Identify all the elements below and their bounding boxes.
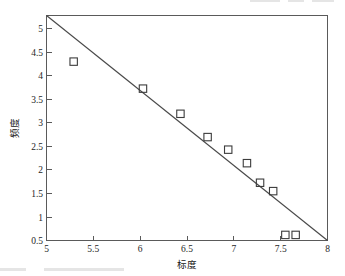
y-tick-labels: 0.5 1 1.5 2 2.5 3 3.5 4 4.5 5 [31, 24, 43, 246]
y-tick-label: 0.5 [31, 236, 43, 246]
x-axis-ticks [47, 236, 328, 241]
x-tick-label: 6.5 [181, 244, 193, 254]
data-point [225, 146, 232, 153]
y-tick-label: 4 [38, 71, 43, 81]
y-tick-label: 1.5 [31, 189, 43, 199]
y-tick-label: 4.5 [31, 48, 43, 58]
fit-line-group [47, 16, 328, 241]
chart-container: 5 5.5 6 6.5 7 7.5 8 0.5 1 1.5 2 2.5 3 3.… [0, 0, 345, 276]
data-point [292, 231, 299, 238]
y-tick-label: 2.5 [31, 142, 43, 152]
y-axis-title: 频度 [9, 118, 20, 138]
x-axis-title: 标度 [177, 259, 197, 270]
data-point [177, 110, 184, 117]
x-tick-label: 6 [138, 244, 143, 254]
data-point [282, 231, 289, 238]
y-tick-label: 5 [38, 24, 43, 34]
y-tick-label: 1 [38, 213, 43, 223]
data-point [204, 133, 211, 140]
x-tick-label: 8 [325, 244, 330, 254]
data-point [243, 159, 250, 166]
x-tick-label: 5.5 [87, 244, 99, 254]
scatter-plot-svg: 5 5.5 6 6.5 7 7.5 8 0.5 1 1.5 2 2.5 3 3.… [0, 0, 345, 276]
x-tick-label: 7.5 [275, 244, 287, 254]
scan-artifacts [0, 0, 334, 271]
y-tick-label: 2 [38, 165, 43, 175]
x-tick-label: 7 [231, 244, 236, 254]
x-tick-label: 5 [44, 244, 49, 254]
data-point [269, 187, 276, 194]
data-point [256, 179, 263, 186]
y-tick-label: 3.5 [31, 95, 43, 105]
data-point [70, 58, 77, 65]
x-tick-labels: 5 5.5 6 6.5 7 7.5 8 [44, 244, 330, 254]
y-tick-label: 3 [38, 118, 43, 128]
y-axis-ticks [47, 29, 52, 241]
data-markers [70, 58, 299, 239]
